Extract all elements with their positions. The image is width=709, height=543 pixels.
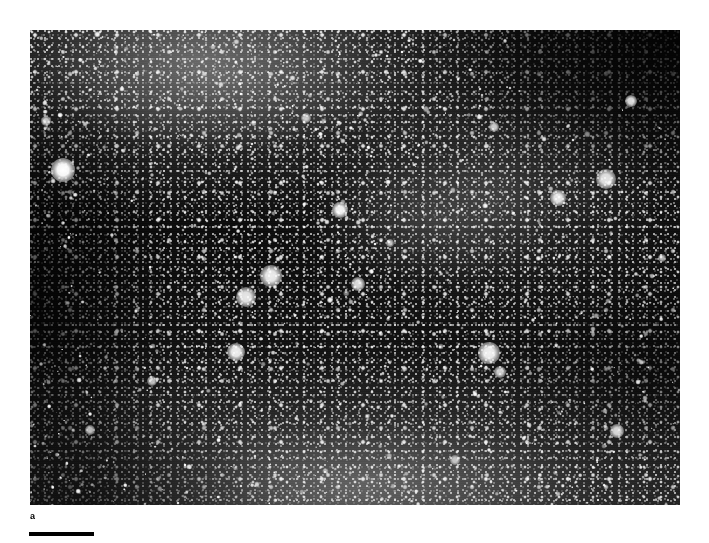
silver-grain — [443, 426, 446, 429]
silver-grain — [330, 365, 331, 366]
silver-grain — [273, 121, 275, 123]
silver-grain — [566, 124, 570, 128]
silver-grain — [482, 423, 483, 424]
silver-grain — [244, 125, 247, 128]
silver-grain — [333, 235, 334, 236]
silver-grain — [143, 255, 147, 259]
silver-grain — [626, 354, 627, 355]
silver-grain — [298, 491, 300, 493]
silver-grain — [168, 235, 169, 236]
silver-grain — [170, 142, 171, 143]
silver-grain — [420, 46, 422, 48]
silver-grain — [325, 170, 328, 173]
silver-grain — [58, 432, 60, 434]
silver-grain — [358, 267, 360, 269]
silver-grain — [259, 336, 263, 340]
silver-grain — [413, 105, 414, 106]
silver-grain — [287, 504, 289, 505]
silver-grain — [604, 186, 605, 187]
silver-grain — [367, 255, 369, 257]
silver-grain — [200, 144, 202, 146]
silver-grain — [450, 305, 451, 306]
silver-grain — [484, 440, 487, 443]
silver-grain — [416, 502, 420, 505]
silver-grain — [551, 503, 554, 505]
silver-grain — [347, 81, 348, 82]
silver-grain — [284, 323, 285, 324]
silver-grain — [460, 261, 463, 264]
silver-grain — [269, 127, 274, 132]
silver-grain — [211, 434, 212, 435]
silver-grain — [285, 85, 287, 87]
silver-grain — [323, 390, 325, 392]
silver-grain — [83, 209, 86, 212]
silver-grain — [562, 235, 565, 238]
silver-grain — [606, 259, 607, 260]
silver-grain — [590, 367, 594, 371]
silver-grain — [664, 503, 668, 505]
silver-grain — [376, 83, 377, 84]
silver-grain — [124, 334, 127, 337]
silver-grain — [665, 308, 666, 309]
silver-grain — [292, 245, 294, 247]
silver-grain — [80, 100, 82, 102]
silver-grain — [137, 356, 139, 358]
silver-grain — [502, 32, 504, 34]
silver-grain — [404, 343, 405, 344]
silver-grain — [464, 296, 468, 300]
silver-grain — [619, 464, 621, 466]
silver-grain — [131, 107, 133, 109]
silver-grain — [185, 314, 186, 315]
silver-grain — [522, 305, 524, 307]
silver-grain — [613, 375, 614, 376]
silver-grain — [336, 241, 340, 245]
silver-grain — [64, 402, 65, 403]
silver-grain — [239, 402, 242, 405]
silver-grain — [544, 135, 545, 136]
silver-grain — [68, 96, 71, 99]
silver-grain — [583, 106, 584, 107]
silver-grain — [492, 287, 494, 289]
silver-grain — [192, 107, 194, 109]
silver-grain — [382, 287, 383, 288]
silver-grain — [432, 375, 435, 378]
silver-grain — [600, 221, 601, 222]
silver-grain — [538, 221, 541, 224]
silver-grain — [370, 155, 373, 158]
silver-grain — [412, 163, 416, 167]
silver-grain — [244, 371, 246, 373]
silver-grain — [90, 483, 94, 487]
silver-grain — [405, 55, 407, 57]
silver-grain — [629, 318, 631, 320]
silver-grain — [410, 340, 411, 341]
silver-grain — [442, 250, 443, 251]
silver-grain — [238, 82, 242, 86]
silver-grain — [569, 397, 571, 399]
silver-grain — [672, 240, 674, 242]
silver-grain — [431, 307, 432, 308]
silver-grain — [505, 241, 507, 243]
silver-grain — [284, 42, 286, 44]
silver-grain — [562, 298, 563, 299]
silver-grain — [349, 263, 351, 265]
silver-grain — [108, 99, 111, 102]
silver-grain — [407, 39, 411, 43]
silver-grain — [258, 241, 261, 244]
silver-grain — [280, 415, 282, 417]
silver-grain — [68, 291, 70, 293]
silver-grain — [226, 195, 228, 197]
silver-grain — [458, 344, 460, 346]
silver-grain — [269, 464, 270, 465]
silver-grain — [634, 272, 638, 276]
silver-grain — [559, 413, 562, 416]
silver-grain — [182, 129, 184, 131]
silver-grain — [89, 179, 92, 182]
silver-grain — [465, 309, 467, 311]
silver-grain — [459, 247, 460, 248]
silver-grain — [410, 499, 413, 502]
silver-grain — [447, 241, 449, 243]
silver-grain — [75, 234, 77, 236]
silver-grain — [439, 263, 441, 265]
silver-grain — [317, 168, 319, 170]
silver-grain — [596, 461, 598, 463]
